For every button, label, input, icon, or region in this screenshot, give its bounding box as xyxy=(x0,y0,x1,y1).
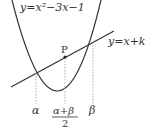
alpha-label: α xyxy=(32,104,40,117)
line-equation-label: y=x+k xyxy=(107,35,146,48)
point-p xyxy=(63,55,66,58)
straight-line xyxy=(11,31,114,87)
beta-label: β xyxy=(88,104,95,117)
diagram-canvas: y=x²−3x−1 y=x+k P α α+β 2 β xyxy=(0,0,150,130)
curve-equation-label: y=x²−3x−1 xyxy=(19,1,85,14)
point-p-label: P xyxy=(61,44,68,55)
midpoint-numerator-label: α+β xyxy=(53,105,74,116)
midpoint-denominator-label: 2 xyxy=(62,118,68,129)
